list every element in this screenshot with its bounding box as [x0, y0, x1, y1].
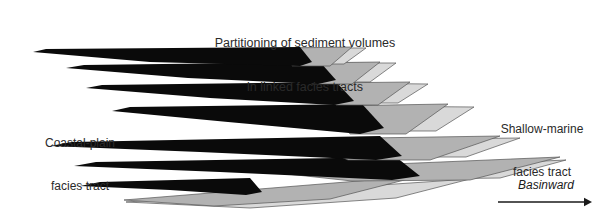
coastal-plain-facies-label: Coastal-plain facies tract — [14, 108, 146, 218]
figure-title-line-2: in linked facies tracts — [0, 80, 610, 95]
basinward-label: Basinward — [486, 178, 606, 192]
figure-title-line-1: Partitioning of sediment volumes — [0, 36, 610, 51]
shallow-marine-label-line-2: facies tract — [476, 165, 608, 179]
figure-canvas: Partitioning of sediment volumes in link… — [0, 0, 610, 218]
coastal-plain-label-line-1: Coastal-plain — [14, 136, 146, 150]
shallow-marine-label-line-1: Shallow-marine — [476, 122, 608, 136]
coastal-plain-label-line-2: facies tract — [14, 179, 146, 193]
